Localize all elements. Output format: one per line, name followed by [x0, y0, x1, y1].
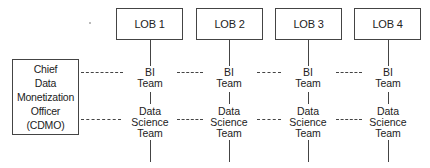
connector-bi2-ds [229, 92, 230, 104]
cdmo-line: Officer [31, 104, 60, 118]
cdmo-line: Data [35, 76, 56, 90]
lob-1-box: LOB 1 [116, 8, 183, 40]
connector-ds1-down [150, 140, 151, 162]
ds-team-2: DataScienceTeam [199, 106, 259, 139]
ds-team-3: DataScienceTeam [278, 106, 338, 139]
lob-label: LOB 3 [293, 18, 323, 30]
ds-team-1: DataScienceTeam [120, 106, 180, 139]
bi-team-4: BITeam [358, 67, 418, 89]
lob-2-box: LOB 2 [196, 8, 263, 40]
connector-lob3-bi [308, 40, 309, 66]
connector-lob2-bi [229, 40, 230, 66]
connector-bi4-ds [388, 92, 389, 104]
lob-label: LOB 2 [214, 18, 244, 30]
connector-lob1-bi [150, 40, 151, 66]
lob-label: LOB 4 [372, 18, 402, 30]
cdmo-line: Monetization [17, 90, 74, 104]
ds-team-4: DataScienceTeam [358, 106, 418, 139]
bi-team-3: BITeam [278, 67, 338, 89]
lob-label: LOB 1 [134, 18, 164, 30]
cdmo-box: Chief Data Monetization Officer (CDMO) [12, 59, 79, 135]
connector-ds4-down [388, 140, 389, 162]
lob-3-box: LOB 3 [275, 8, 342, 40]
lob-4-box: LOB 4 [354, 8, 421, 40]
bi-team-2: BITeam [199, 67, 259, 89]
connector-bi1-ds [150, 92, 151, 104]
bi-team-1: BITeam [120, 67, 180, 89]
connector-ds2-down [229, 140, 230, 162]
connector-lob4-bi [388, 40, 389, 66]
stray-dot [89, 22, 91, 24]
dashed-link-cdmo-ds1 [81, 119, 121, 120]
cdmo-line: (CDMO) [27, 118, 65, 132]
dashed-link-cdmo-bi1 [81, 72, 123, 73]
connector-ds3-down [308, 140, 309, 162]
cdmo-line: Chief [34, 62, 58, 76]
connector-bi3-ds [308, 92, 309, 104]
